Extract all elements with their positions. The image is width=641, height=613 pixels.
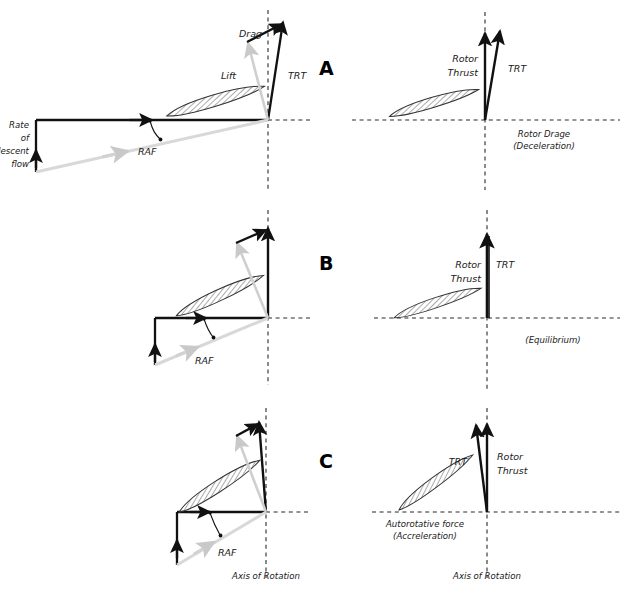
axis-of-rotation-label-left: Axis of Rotation — [231, 571, 300, 581]
rotor-thrust-label-a-line2: Thrust — [448, 67, 480, 78]
arc-dot-top-a — [148, 119, 151, 122]
background — [0, 0, 641, 613]
arc-dot-bottom-c — [219, 534, 223, 538]
flow-label-a-line1: Rate — [9, 120, 29, 130]
trt-label-a-left: TRT — [288, 70, 307, 81]
trt-label-c-right: TRT — [449, 456, 468, 467]
arc-dot-bottom-a — [159, 138, 163, 142]
trt-label-b-right: TRT — [496, 259, 515, 270]
panel-letter-b: B — [319, 252, 333, 274]
condition-label-a-line2: (Deceleration) — [513, 141, 575, 151]
axis-of-rotation-label-right: Axis of Rotation — [452, 571, 521, 581]
raf-label-b: RAF — [195, 355, 214, 366]
arc-dot-bottom-b — [212, 336, 216, 340]
arc-dot-top-c — [208, 511, 211, 514]
panel-letter-c: C — [319, 450, 333, 472]
diagram-canvas: Drag Lift TRT RAF Rate of descent flow A… — [0, 0, 641, 613]
rotor-thrust-label-b-line2: Thrust — [451, 273, 483, 284]
condition-label-b-line1: (Equilibrium) — [525, 335, 580, 345]
lift-label-a: Lift — [221, 70, 237, 81]
autorotation-force-diagram: Drag Lift TRT RAF Rate of descent flow A… — [0, 0, 641, 613]
rotor-thrust-label-c-line1: Rotor — [497, 451, 524, 462]
trt-label-a-right: TRT — [508, 63, 527, 74]
raf-label-a: RAF — [138, 146, 157, 157]
condition-label-a-line1: Rotor Drage — [518, 129, 570, 139]
condition-label-c-line1: Autorotative force — [385, 519, 464, 529]
condition-label-c-line2: (Accreleration) — [393, 531, 457, 541]
flow-label-a-line4: flow — [11, 159, 30, 169]
raf-label-c: RAF — [218, 547, 237, 558]
rotor-thrust-label-c-line2: Thrust — [497, 465, 529, 476]
arc-dot-top-b — [202, 317, 205, 320]
panel-letter-a: A — [319, 57, 334, 79]
rotor-thrust-label-b-line1: Rotor — [455, 259, 482, 270]
drag-label-a: Drag — [239, 28, 262, 39]
flow-label-a-line3: descent — [0, 146, 30, 156]
rotor-thrust-label-a-line1: Rotor — [452, 53, 479, 64]
